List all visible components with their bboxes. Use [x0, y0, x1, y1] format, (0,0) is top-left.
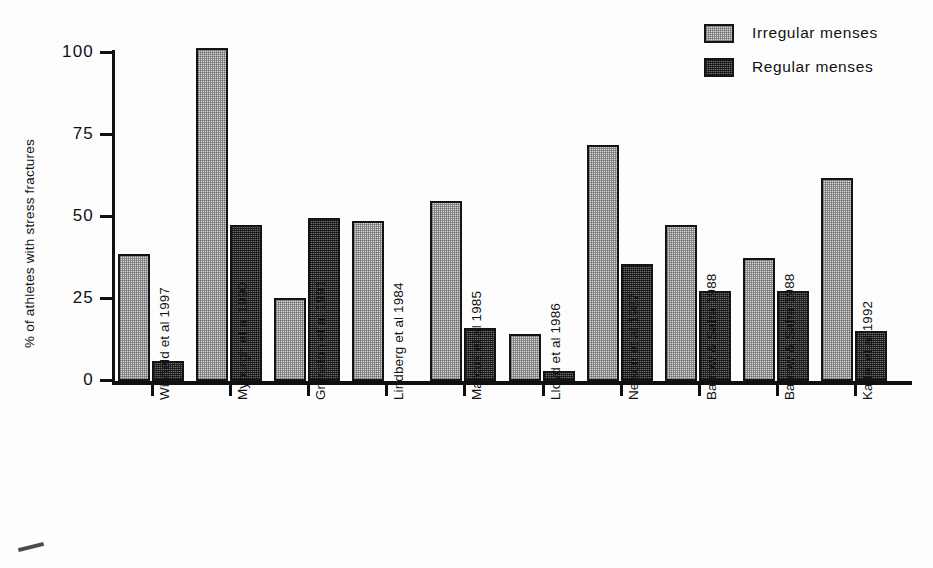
y-axis-title: % of athletes with stress fractures	[22, 129, 37, 359]
x-axis-category-label-5: Lloyd et al 1986	[548, 303, 563, 400]
legend: Irregular menses Regular menses	[704, 22, 919, 90]
x-axis-category-label-6: Nelson et al 1987	[626, 293, 641, 400]
x-tick-mark-0	[151, 385, 154, 396]
x-axis-category-label-7: Barrow & Saha 1988	[704, 274, 719, 400]
x-axis-category-label-8: Barrow & Saha 1988	[782, 274, 797, 400]
x-tick-mark-2	[307, 385, 310, 396]
y-tick-label-75: 75	[0, 124, 94, 144]
legend-label-irregular: Irregular menses	[752, 24, 878, 42]
x-axis-category-label-3: Lindberg et al 1984	[391, 283, 406, 401]
legend-label-regular: Regular menses	[752, 58, 873, 76]
y-tick-label-25: 25	[0, 288, 94, 308]
x-tick-mark-7	[698, 385, 701, 396]
y-tick-mark-25	[100, 297, 112, 300]
bar-chart-figure: 100 75 50 25 0 % of athletes with stress…	[0, 0, 933, 568]
legend-swatch-regular-icon	[704, 58, 734, 77]
y-tick-label-50: 50	[0, 206, 94, 226]
y-tick-mark-100	[100, 51, 112, 54]
x-tick-mark-3	[385, 385, 388, 396]
x-tick-mark-9	[854, 385, 857, 396]
legend-item-irregular[interactable]: Irregular menses	[704, 22, 919, 44]
x-tick-mark-1	[229, 385, 232, 396]
bar-irregular-8	[743, 258, 775, 381]
x-tick-mark-4	[463, 385, 466, 396]
bar-irregular-9	[821, 178, 853, 381]
y-tick-label-100: 100	[0, 42, 94, 62]
x-axis-category-label-1: Myburgh et al 1990	[235, 283, 250, 400]
bar-irregular-2	[274, 298, 306, 381]
legend-swatch-irregular-icon	[704, 24, 734, 43]
bar-irregular-7	[665, 225, 697, 382]
y-tick-mark-50	[100, 215, 112, 218]
x-tick-mark-8	[776, 385, 779, 396]
bar-irregular-3	[352, 221, 384, 381]
x-axis-category-label-4: Marcus et al 1985	[469, 291, 484, 400]
x-tick-mark-6	[620, 385, 623, 396]
x-tick-mark-5	[542, 385, 545, 396]
bar-irregular-0	[118, 254, 150, 381]
y-tick-mark-75	[100, 133, 112, 136]
bar-irregular-6	[587, 145, 619, 381]
legend-item-regular[interactable]: Regular menses	[704, 56, 919, 78]
y-tick-mark-0	[100, 379, 112, 382]
bar-irregular-5	[509, 334, 541, 381]
plot-area	[112, 48, 893, 381]
y-axis-tick-labels: 100 75 50 25 0	[0, 0, 94, 568]
x-axis-category-label-9: Kadel et al 1992	[860, 301, 875, 400]
bar-irregular-1	[196, 48, 228, 381]
x-axis-category-label-0: Winfield et al 1997	[157, 287, 172, 400]
y-tick-label-0: 0	[0, 370, 94, 390]
bar-irregular-4	[430, 201, 462, 381]
x-axis-category-label-2: Grimston et al 1991	[313, 280, 328, 400]
